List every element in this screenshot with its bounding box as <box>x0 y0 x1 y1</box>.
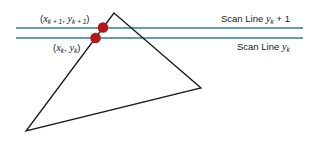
label-text: Scan Line <box>221 13 266 24</box>
scan-line-label-upper: Scan Line yk + 1 <box>221 14 290 26</box>
intersection-point-lower <box>90 33 101 44</box>
scan-line-label-lower: Scan Line yk <box>237 42 290 54</box>
diagram-canvas: (xk + 1, yk + 1) (xk, yk) Scan Line yk +… <box>0 0 320 151</box>
point-label-upper: (xk + 1, yk + 1) <box>40 14 90 26</box>
sub-k1: k + 1 <box>72 18 86 25</box>
point-label-lower: (xk, yk) <box>53 43 80 55</box>
polygon-triangle <box>26 13 201 131</box>
sub-k1: k + 1 <box>48 18 62 25</box>
sub-k: k <box>74 47 77 54</box>
sub-k: k <box>61 47 64 54</box>
label-text: Scan Line <box>237 41 282 52</box>
label-suffix: + 1 <box>274 13 290 24</box>
sub-k: k <box>287 46 290 53</box>
intersection-point-upper <box>98 22 109 33</box>
